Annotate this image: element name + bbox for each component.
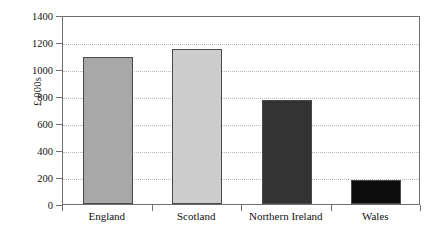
y-tick-mark bbox=[56, 16, 62, 17]
y-tick-label: 200 bbox=[0, 173, 62, 184]
x-axis-label-england: England bbox=[62, 210, 152, 222]
y-tick-label: 1200 bbox=[0, 38, 62, 49]
bars-layer bbox=[63, 17, 419, 204]
y-tick-mark bbox=[56, 70, 62, 71]
bar-england bbox=[83, 57, 133, 204]
y-tick-label: 800 bbox=[0, 92, 62, 103]
bar-scotland bbox=[172, 49, 222, 204]
x-axis-label-wales: Wales bbox=[331, 210, 421, 222]
y-tick-mark bbox=[56, 151, 62, 152]
x-axis-label-scotland: Scotland bbox=[152, 210, 242, 222]
x-tick-mark bbox=[420, 205, 421, 211]
y-tick-label: 1400 bbox=[0, 11, 62, 22]
bar-northern-ireland bbox=[262, 100, 312, 204]
y-tick-label: 1000 bbox=[0, 65, 62, 76]
bar-wales bbox=[351, 180, 401, 204]
y-tick-mark bbox=[56, 124, 62, 125]
y-tick-label: 600 bbox=[0, 119, 62, 130]
y-tick-mark bbox=[56, 178, 62, 179]
y-tick-label: 0 bbox=[0, 200, 62, 211]
bar-chart: £ 000s 0200400600800100012001400 England… bbox=[0, 0, 433, 238]
y-tick-mark bbox=[56, 97, 62, 98]
y-tick-mark bbox=[56, 43, 62, 44]
plot-area bbox=[62, 16, 420, 205]
x-axis-label-northern-ireland: Northern Ireland bbox=[241, 210, 331, 222]
y-tick-label: 400 bbox=[0, 146, 62, 157]
